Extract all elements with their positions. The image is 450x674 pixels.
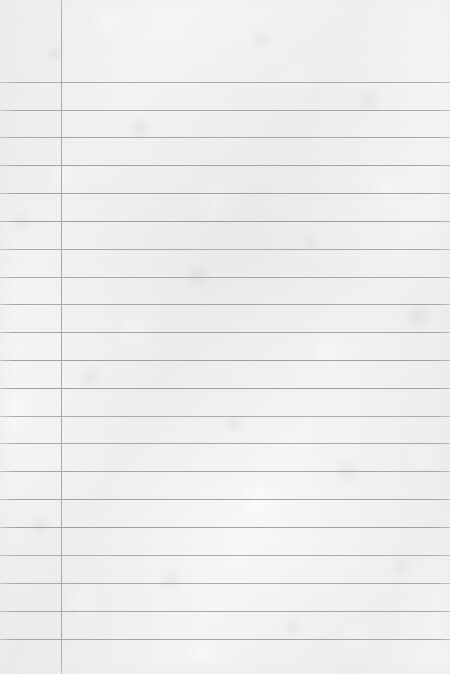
rule-line: [0, 443, 450, 444]
rule-line: [0, 416, 450, 417]
rule-line: [0, 137, 450, 138]
rule-line: [0, 304, 450, 305]
rule-line: [0, 249, 450, 250]
paper-tonal-shading: [0, 0, 450, 674]
rule-line: [0, 332, 450, 333]
rule-line: [0, 82, 450, 83]
rule-line: [0, 583, 450, 584]
rule-line: [0, 193, 450, 194]
paper-fiber-texture-light: [0, 0, 450, 674]
rule-line: [0, 611, 450, 612]
rule-line: [0, 388, 450, 389]
lined-paper-sheet: [0, 0, 450, 674]
rule-line: [0, 527, 450, 528]
rule-line: [0, 110, 450, 111]
paper-speckle-texture: [0, 0, 450, 674]
rule-line: [0, 277, 450, 278]
rule-line: [0, 639, 450, 640]
rule-line: [0, 499, 450, 500]
rule-line: [0, 555, 450, 556]
rule-line: [0, 360, 450, 361]
ruled-lines-group: [0, 0, 450, 674]
paper-weave-texture: [0, 0, 450, 674]
paper-edge-vignette: [0, 0, 450, 674]
rule-line: [0, 471, 450, 472]
rule-line: [0, 221, 450, 222]
rule-line: [0, 165, 450, 166]
paper-fiber-texture-dark: [0, 0, 450, 674]
margin-rule-line: [61, 0, 62, 674]
